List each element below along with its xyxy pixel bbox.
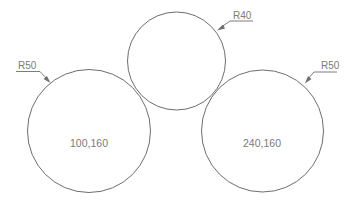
top-circle [128,12,226,110]
top-radius-dimension: R40 [217,10,253,31]
left-radius-arrow-icon [44,76,51,83]
right-circle [202,70,324,192]
left-radius-leader-line [16,72,48,81]
left-radius-label: R50 [18,60,37,71]
left-circle-center-label: 100,160 [70,137,108,149]
construction-diagram: 100,160 240,160 R50 R40 R50 [0,0,350,205]
right-circle-group: 240,160 [202,70,324,192]
right-radius-label: R50 [321,60,340,71]
top-radius-label: R40 [233,10,252,21]
right-radius-leader-line [307,72,337,80]
left-radius-dimension: R50 [16,60,51,83]
top-radius-leader-line [220,21,253,28]
top-circle-group [128,12,226,110]
left-circle-group: 100,160 [28,70,151,193]
left-circle [28,70,151,193]
right-radius-dimension: R50 [305,60,340,84]
right-radius-arrow-icon [305,76,312,84]
right-circle-center-label: 240,160 [243,137,281,149]
